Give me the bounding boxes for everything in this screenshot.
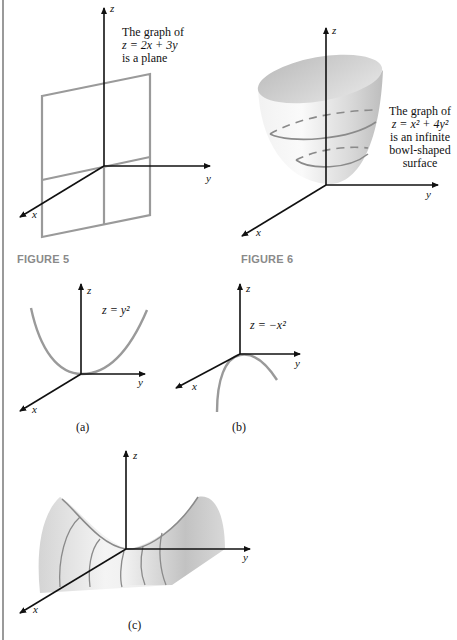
saddle-graph [0,435,340,640]
x-axis-label: x [256,226,261,239]
annotation-line: surface [380,157,457,170]
annotation-line: is a plane [122,52,184,65]
z-axis-label: z [110,2,114,15]
figure-b-parabola: z y x z = −x² (b) [170,270,350,435]
subfigure-label-b: (b) [232,420,246,435]
y-axis-label: y [138,376,143,389]
y-axis-label: y [426,188,431,201]
x-axis-label: x [32,403,37,416]
plane-graph [0,0,230,240]
figure-5-plane: z y x The graph of z = 2x + 3y is a plan… [0,0,230,240]
z-axis-label: z [133,449,137,462]
z-axis-label: z [246,282,250,295]
figure-6-annotation: The graph of z = x² + 4y² is an infinite… [380,105,457,170]
y-axis-label: y [206,172,211,185]
x-axis-label: x [192,380,197,393]
y-axis-label: y [243,551,248,564]
figure-6-paraboloid: z y x The graph of z = x² + 4y² is an in… [230,30,457,260]
z-axis-label: z [87,284,91,297]
parabola-x-graph [170,270,350,435]
subfigure-label-c: (c) [128,618,141,633]
y-axis-label: y [295,357,300,370]
figure-5-annotation: The graph of z = 2x + 3y is a plane [122,26,184,65]
figure-5-caption: FIGURE 5 [17,253,69,265]
equation-label: z = −x² [250,319,286,332]
subfigure-label-a: (a) [76,420,89,435]
figure-a-parabola: z y x z = y² (a) [0,270,180,435]
x-axis-label: x [33,603,38,616]
x-axis-label: x [32,208,37,221]
z-axis-label: z [332,24,336,37]
figure-6-caption: FIGURE 6 [241,253,293,265]
figure-c-saddle: z y x (c) [0,435,340,640]
equation-label: z = y² [102,304,130,317]
